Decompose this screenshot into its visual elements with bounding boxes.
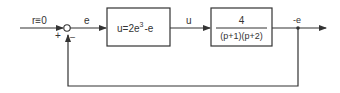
block-diagram: r≡0 + – e u=2e3-e u 4 (p+1)(p+2) -e bbox=[0, 0, 340, 93]
control-label: u bbox=[186, 15, 192, 26]
error-label: e bbox=[84, 15, 90, 26]
minus-sign: – bbox=[70, 32, 75, 42]
input-label: r≡0 bbox=[32, 15, 47, 26]
plus-sign: + bbox=[55, 30, 61, 41]
summing-junction bbox=[64, 25, 70, 31]
nonlinear-block-expr: u=2e3-e bbox=[117, 21, 154, 34]
plant-numerator: 4 bbox=[239, 15, 245, 26]
plant-denominator: (p+1)(p+2) bbox=[220, 31, 263, 41]
output-label: -e bbox=[293, 15, 301, 25]
